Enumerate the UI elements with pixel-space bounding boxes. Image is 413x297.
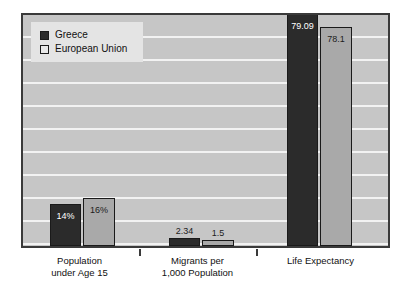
- category-label-line: 1,000 Population: [140, 267, 255, 279]
- bar-value-label: 78.1: [321, 34, 351, 45]
- bar-value-label: 2.34: [170, 226, 199, 237]
- bar-eu-migrants-per-1000[interactable]: 1.5: [202, 240, 234, 246]
- legend-item-greece[interactable]: Greece: [40, 28, 127, 42]
- bar-value-label: 16%: [84, 205, 114, 216]
- legend-label: Greece: [55, 29, 88, 41]
- bar-value-label: 1.5: [203, 228, 233, 239]
- bar-value-label: 14%: [51, 211, 80, 222]
- category-label-life-expectancy: Life Expectancy: [258, 255, 383, 267]
- dark-swatch-icon: [40, 31, 49, 40]
- bar-eu-life-expectancy[interactable]: 78.1: [320, 27, 352, 246]
- category-label-population-under-15: Population under Age 15: [22, 255, 137, 278]
- bar-greece-population-under-15[interactable]: 14%: [50, 204, 81, 246]
- category-label-migrants-per-1000: Migrants per 1,000 Population: [140, 255, 255, 278]
- legend-item-european-union[interactable]: European Union: [40, 42, 127, 56]
- bar-chart: 14% 16% 2.34 1.5 79.09 78.1 Greece Europ…: [0, 0, 413, 297]
- legend-label: European Union: [55, 43, 127, 55]
- bar-greece-migrants-per-1000[interactable]: 2.34: [169, 238, 200, 246]
- category-label-line: Migrants per: [140, 255, 255, 267]
- legend: Greece European Union: [31, 22, 143, 62]
- category-label-line: Population: [22, 255, 137, 267]
- bar-greece-life-expectancy[interactable]: 79.09: [287, 14, 318, 246]
- bar-value-label: 79.09: [288, 21, 317, 32]
- category-label-line: under Age 15: [22, 267, 137, 279]
- category-label-line: Life Expectancy: [258, 255, 383, 267]
- bar-eu-population-under-15[interactable]: 16%: [83, 198, 115, 246]
- light-swatch-icon: [40, 45, 49, 54]
